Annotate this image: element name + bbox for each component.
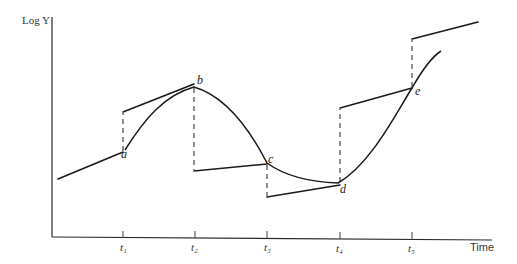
tick-label-t4: t₄ bbox=[336, 242, 343, 254]
tick-label-t3: t₃ bbox=[264, 241, 271, 253]
point-label-a: a bbox=[121, 147, 127, 161]
growth-curve bbox=[125, 51, 441, 183]
tick-label-t5: t₅ bbox=[408, 242, 415, 254]
point-label-d: d bbox=[340, 182, 347, 196]
log-y-time-diagram: Log Y Time t₁ t₂ t₃ t₄ t₅ a b c d e bbox=[0, 0, 517, 264]
segment-t2-t3 bbox=[194, 164, 267, 171]
segment-t3-t4 bbox=[267, 185, 340, 197]
initial-trend-line bbox=[58, 152, 123, 179]
x-axis-label: Time bbox=[470, 241, 494, 253]
segment-after-t5 bbox=[412, 22, 478, 39]
point-label-c: c bbox=[268, 152, 274, 166]
tick-label-t1: t₁ bbox=[120, 241, 127, 253]
x-axis bbox=[52, 237, 492, 240]
point-label-b: b bbox=[197, 73, 203, 87]
y-axis-label: Log Y bbox=[22, 14, 50, 26]
tick-label-t2: t₂ bbox=[191, 241, 198, 253]
point-label-e: e bbox=[415, 84, 421, 98]
